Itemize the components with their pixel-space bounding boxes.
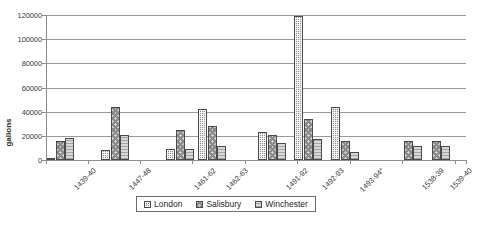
legend-item-london: London xyxy=(144,199,182,209)
bar-winchester xyxy=(313,139,322,160)
bar-salisbury xyxy=(268,135,277,160)
y-tick-label: 120000 xyxy=(18,11,42,20)
plot-area xyxy=(46,15,466,160)
legend-label: Salisbury xyxy=(206,199,241,209)
bar-winchester xyxy=(65,138,74,160)
legend-swatch-icon xyxy=(144,201,151,208)
bar-group xyxy=(394,15,422,160)
bar-salisbury xyxy=(432,141,441,160)
bar-salisbury xyxy=(56,141,65,160)
bar-salisbury xyxy=(208,126,217,160)
bar-winchester xyxy=(441,146,450,160)
bar-winchester xyxy=(350,152,359,160)
bar-winchester xyxy=(217,146,226,161)
x-tick-label: 1492-93 xyxy=(320,166,346,192)
x-tick-mark xyxy=(245,160,246,164)
y-tick-label: 60000 xyxy=(22,83,42,92)
bar-group xyxy=(258,15,286,160)
legend-item-salisbury: Salisbury xyxy=(196,199,241,209)
bar-winchester xyxy=(277,143,286,160)
legend-label: London xyxy=(154,199,182,209)
bar-london xyxy=(294,16,303,160)
bar-salisbury xyxy=(404,141,413,160)
x-tick-mark xyxy=(455,160,456,164)
bar-group xyxy=(294,15,322,160)
x-tick-label: 1461-62 xyxy=(192,166,218,192)
bar-winchester xyxy=(413,146,422,160)
x-tick-label: 1491-92 xyxy=(284,166,310,192)
bar-group xyxy=(46,15,74,160)
bar-salisbury xyxy=(176,130,185,160)
bar-group xyxy=(198,15,226,160)
bar-london xyxy=(198,109,207,160)
x-tick-mark xyxy=(402,160,403,164)
legend-label: Winchester xyxy=(265,199,308,209)
bar-london xyxy=(331,107,340,160)
bar-winchester xyxy=(120,135,129,160)
x-axis-line xyxy=(46,160,466,161)
legend-swatch-icon xyxy=(196,201,203,208)
y-tick-label: 40000 xyxy=(22,107,42,116)
x-tick-label: 1439-40 xyxy=(72,166,98,192)
x-tick-mark xyxy=(466,160,467,164)
x-tick-mark xyxy=(192,160,193,164)
x-tick-label: 1493-94* xyxy=(358,166,386,194)
legend-swatch-icon xyxy=(255,201,262,208)
y-tick-label: 100000 xyxy=(18,35,42,44)
x-tick-label: 1462-63 xyxy=(224,166,250,192)
x-tick-mark xyxy=(350,160,351,164)
y-tick-label: 80000 xyxy=(22,59,42,68)
y-axis-line xyxy=(46,15,47,161)
bar-london xyxy=(101,150,110,160)
bar-winchester xyxy=(185,149,194,160)
bar-group xyxy=(101,15,129,160)
bar-london xyxy=(166,149,175,160)
bar-salisbury xyxy=(341,141,350,160)
x-tick-label: 1538-39 xyxy=(420,166,446,192)
x-tick-mark xyxy=(88,160,89,164)
chart-screenshot: 020000400006000080000100000120000 1439-4… xyxy=(0,0,479,230)
bar-group xyxy=(166,15,194,160)
legend-item-winchester: Winchester xyxy=(255,199,308,209)
bar-salisbury xyxy=(111,107,120,160)
y-tick-label: 20000 xyxy=(22,131,42,140)
x-tick-mark xyxy=(140,160,141,164)
chart-legend: LondonSalisburyWinchester xyxy=(136,196,316,212)
y-axis-title: gallons xyxy=(4,111,13,155)
x-tick-label: 1447-48 xyxy=(127,166,153,192)
x-tick-mark xyxy=(46,160,47,164)
bar-group xyxy=(422,15,450,160)
x-tick-label: 1539-40 xyxy=(448,166,474,192)
bar-london xyxy=(258,132,267,160)
bar-group xyxy=(331,15,359,160)
bar-salisbury xyxy=(304,119,313,160)
x-tick-mark xyxy=(297,160,298,164)
